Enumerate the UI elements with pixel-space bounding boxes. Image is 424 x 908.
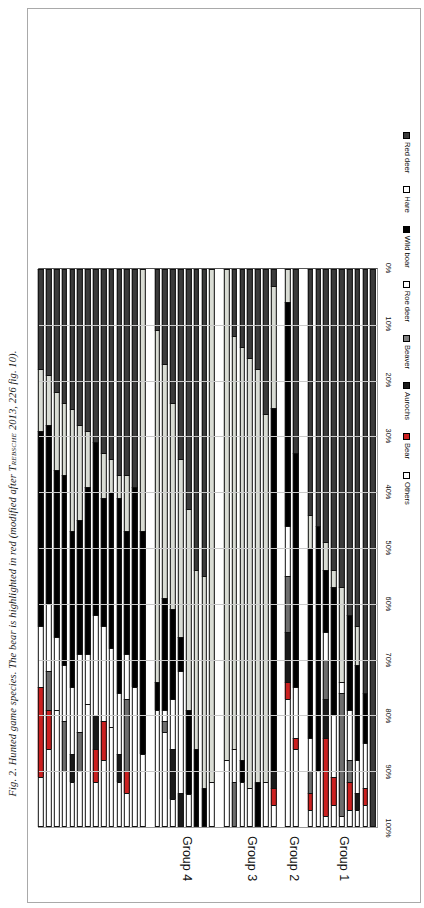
legend-swatch-icon	[404, 432, 411, 439]
bar-segment	[85, 486, 91, 653]
plot-area	[38, 268, 378, 828]
group-label: Group 3	[245, 836, 259, 881]
bar-segment	[101, 269, 107, 453]
bar-segment	[271, 269, 277, 286]
grid-line	[39, 436, 377, 437]
bar-segment	[209, 269, 215, 782]
figure-caption: Fig. 2. Hunted game species. The bear is…	[7, 97, 18, 797]
bar-segment	[38, 430, 44, 625]
bar-segment	[38, 626, 44, 687]
bar-segment	[232, 335, 238, 748]
bar-segment	[355, 810, 361, 827]
legend-swatch-icon	[404, 186, 411, 193]
bar-segment	[194, 269, 200, 570]
axis-tick-label: 90%	[384, 764, 393, 779]
bar-segment	[93, 614, 99, 714]
chart-legend: Red deerHareWild boarRoe deerBeaverAuroc…	[399, 132, 415, 505]
legend-label: Aurochs	[403, 392, 411, 420]
bar-segment	[293, 687, 299, 737]
bar-segment	[77, 520, 83, 654]
bar-segment	[355, 269, 361, 626]
bar-segment	[109, 492, 115, 648]
bar-segment	[46, 269, 52, 375]
bar-segment	[62, 720, 68, 770]
bar-segment	[162, 363, 168, 597]
legend-item: Red deer	[403, 132, 411, 173]
bar-segment	[224, 760, 230, 827]
bar-segment	[124, 771, 130, 793]
legend-label: Beaver	[403, 345, 411, 369]
bar-segment	[339, 681, 345, 692]
bar-segment	[85, 654, 91, 704]
bar-segment	[331, 715, 337, 776]
bar-segment	[124, 475, 130, 531]
bar-segment	[331, 570, 337, 587]
bar-segment	[323, 698, 329, 737]
bar-segment	[178, 637, 184, 670]
grid-line	[39, 603, 377, 604]
bar-segment	[347, 269, 353, 615]
bar-segment	[308, 810, 314, 827]
legend-item: Aurochs	[403, 382, 411, 420]
bar-segment	[331, 776, 337, 804]
bar-segment	[285, 631, 291, 681]
bar-segment	[116, 475, 122, 497]
legend-label: Bear	[403, 442, 411, 458]
bar-segment	[54, 469, 60, 636]
bar-segment	[38, 687, 44, 776]
bar-segment	[255, 269, 261, 369]
bar-segment	[85, 269, 91, 431]
bar-segment	[162, 720, 168, 731]
bar-segment	[116, 497, 122, 692]
bar-segment	[170, 799, 176, 827]
bar-segment	[339, 587, 345, 682]
bar-segment	[116, 754, 122, 782]
bar-segment	[69, 269, 75, 409]
bar-segment	[331, 804, 337, 826]
bar-segment	[323, 269, 329, 542]
bar-segment	[101, 497, 107, 625]
bar-segment	[339, 815, 345, 826]
bar-segment	[170, 748, 176, 798]
bar-segment	[347, 709, 353, 759]
bar-segment	[355, 665, 361, 760]
bar-segment	[362, 804, 368, 826]
bar-segment	[239, 782, 245, 827]
bar-segment	[38, 776, 44, 826]
figure-page: Fig. 2. Hunted game species. The bear is…	[0, 0, 424, 908]
bar-segment	[347, 614, 353, 709]
grid-line	[39, 548, 377, 549]
bar-segment	[178, 670, 184, 793]
axis-tick-label: 40%	[384, 484, 393, 499]
bar-segment	[46, 670, 52, 709]
axis-tick-label: 0%	[384, 262, 393, 273]
bar-segment	[154, 330, 160, 682]
bar-segment	[162, 269, 168, 364]
bar-segment	[101, 626, 107, 721]
bar-segment	[77, 771, 83, 827]
bar-segment	[62, 475, 68, 665]
bar-segment	[232, 748, 238, 781]
bar-segment	[347, 810, 353, 827]
axis-tick-label: 80%	[384, 708, 393, 723]
bar-segment	[101, 720, 107, 759]
axis-tick-label: 100%	[384, 818, 393, 837]
bar-segment	[323, 570, 329, 631]
bar-segment	[347, 782, 353, 810]
caption-author: Trebsche	[7, 433, 18, 472]
bar-segment	[285, 525, 291, 575]
bar-segment	[132, 269, 138, 487]
legend-swatch-icon	[404, 225, 411, 232]
bar-segment	[362, 693, 368, 743]
bar-segment	[69, 782, 75, 827]
bar-segment	[140, 531, 146, 754]
bar-segment	[362, 269, 368, 693]
legend-item: Bear	[403, 432, 411, 458]
legend-label: Red deer	[403, 142, 411, 173]
bar-segment	[93, 269, 99, 442]
bar-segment	[209, 782, 215, 827]
bar-segment	[224, 269, 230, 760]
bar-segment	[255, 369, 261, 782]
bar-segment	[77, 269, 83, 425]
legend-item: Hare	[403, 186, 411, 212]
